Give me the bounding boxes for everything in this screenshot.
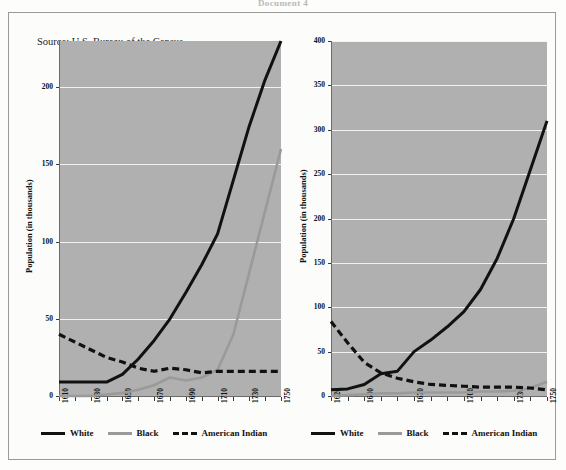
legend-label: White [70, 428, 94, 438]
legend-item: American Indian [443, 428, 538, 438]
series-layer [291, 13, 566, 461]
legend-label: Black [407, 428, 429, 438]
series-line-white [331, 121, 547, 390]
legend-item: American Indian [173, 428, 268, 438]
legend-item: White [41, 428, 94, 438]
legend-label: American Indian [472, 428, 538, 438]
series-line-american-indian [59, 334, 281, 373]
legend-label: American Indian [202, 428, 268, 438]
legend-item: Black [108, 428, 159, 438]
legend-item: Black [378, 428, 429, 438]
legend-label: Black [137, 428, 159, 438]
document-header-label: Document 4 [0, 0, 566, 8]
legend-swatch-american-indian [173, 432, 197, 435]
chart-legend: WhiteBlackAmerican Indian [41, 428, 281, 438]
document-frame: Source: U.S. Bureau of the Census 050100… [8, 12, 556, 460]
legend-swatch-white [41, 432, 65, 435]
series-line-black [59, 149, 281, 396]
left-population-chart: 0501001502001610163016501670169017101730… [9, 13, 291, 461]
legend-label: White [340, 428, 364, 438]
chart-legend: WhiteBlackAmerican Indian [311, 428, 551, 438]
legend-swatch-black [108, 432, 132, 435]
right-population-chart: 0501001502002503003504001620164016701700… [291, 13, 557, 461]
legend-swatch-black [378, 432, 402, 435]
legend-item: White [311, 428, 364, 438]
series-line-white [59, 41, 281, 382]
legend-swatch-white [311, 432, 335, 435]
document-page: Document 4 Source: U.S. Bureau of the Ce… [0, 0, 566, 470]
legend-swatch-american-indian [443, 432, 467, 435]
